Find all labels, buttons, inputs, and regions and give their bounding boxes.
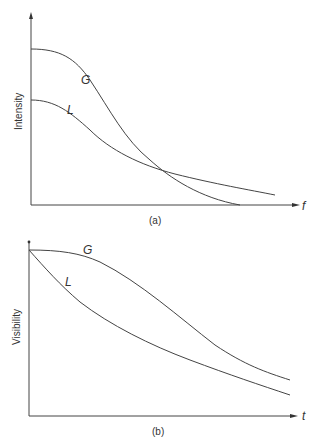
x-axis-arrow-icon xyxy=(290,414,298,418)
curve-g-b xyxy=(29,250,290,380)
label-g-b: G xyxy=(83,243,92,257)
label-l-a: L xyxy=(67,103,74,117)
label-g-a: G xyxy=(81,73,90,87)
y-axis-arrow-icon xyxy=(29,12,33,19)
label-l-b: L xyxy=(65,275,72,289)
caption-b: (b) xyxy=(152,426,164,437)
y-label-b: Visibility xyxy=(11,309,22,345)
x-label-b: t xyxy=(302,409,306,423)
x-label-a: f xyxy=(302,199,307,213)
x-axis-arrow-icon xyxy=(292,203,300,207)
y-axis-arrow-icon xyxy=(28,241,31,244)
caption-a: (a) xyxy=(149,215,161,226)
panel-b: G L t (b) Visibility xyxy=(11,241,306,437)
y-label-a: Intensity xyxy=(13,93,24,130)
curve-l-b xyxy=(29,250,290,395)
panel-a: G L f (a) Intensity xyxy=(13,12,307,226)
figure: G L f (a) Intensity G L t (b) Visibility xyxy=(0,0,321,448)
